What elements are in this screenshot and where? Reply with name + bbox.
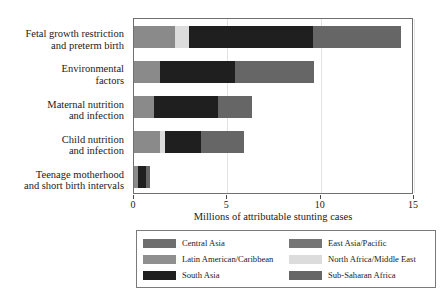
legend-label: North Africa/Middle East [328, 254, 416, 264]
legend-label: Latin American/Caribbean [182, 254, 273, 264]
bar-segment[interactable] [134, 61, 160, 83]
legend-grid: Central AsiaEast Asia/PacificLatin Ameri… [143, 235, 429, 283]
bar-segment[interactable] [201, 131, 244, 153]
stacked-bar-chart-figure: Fetal growth restriction and preterm bir… [0, 0, 442, 292]
bar-segment[interactable] [175, 26, 189, 48]
bar-segment[interactable] [138, 166, 146, 188]
gridline [414, 19, 415, 193]
legend-swatch [289, 255, 322, 264]
category-label: Fetal growth restriction and preterm bir… [25, 28, 124, 51]
bar-segment[interactable] [154, 96, 218, 118]
category-label: Environmental factors [62, 63, 124, 86]
legend-item[interactable]: East Asia/Pacific [289, 238, 429, 248]
x-axis-tick-label: 10 [315, 199, 325, 210]
bar-segment[interactable] [189, 26, 313, 48]
legend-swatch [143, 239, 176, 248]
x-axis-tick-label: 5 [224, 199, 229, 210]
category-label: Maternal nutrition and infection [47, 99, 124, 122]
x-axis-tick-label: 0 [131, 199, 136, 210]
legend-item[interactable]: North Africa/Middle East [289, 254, 429, 264]
legend-item[interactable]: Central Asia [143, 238, 283, 248]
legend-label: South Asia [182, 270, 219, 280]
bar-segment[interactable] [165, 131, 201, 153]
legend-swatch [289, 271, 322, 280]
x-axis-title: Millions of attributable stunting cases [133, 211, 413, 222]
bar-row[interactable] [134, 131, 244, 153]
legend-label: Sub-Saharan Africa [328, 270, 396, 280]
bar-segment[interactable] [134, 131, 160, 153]
bar-segment[interactable] [146, 166, 150, 188]
legend-item[interactable]: South Asia [143, 270, 283, 280]
legend-item[interactable]: Sub-Saharan Africa [289, 270, 429, 280]
legend-swatch [143, 255, 176, 264]
legend-swatch [289, 239, 322, 248]
x-axis-tick-label: 15 [408, 199, 418, 210]
plot-area [133, 18, 413, 194]
bar-segment[interactable] [235, 61, 314, 83]
bar-segment[interactable] [134, 96, 154, 118]
category-axis-labels: Fetal growth restriction and preterm bir… [0, 22, 128, 194]
bar-segment[interactable] [160, 61, 235, 83]
legend-item[interactable]: Latin American/Caribbean [143, 254, 283, 264]
bar-segment[interactable] [218, 96, 252, 118]
bar-row[interactable] [134, 61, 314, 83]
category-label: Child nutrition and infection [62, 134, 124, 157]
bar-row[interactable] [134, 26, 401, 48]
bar-segment[interactable] [313, 26, 401, 48]
legend-swatch [143, 271, 176, 280]
legend-label: East Asia/Pacific [328, 238, 386, 248]
bar-segment[interactable] [134, 26, 175, 48]
bar-row[interactable] [134, 166, 150, 188]
chart-legend: Central AsiaEast Asia/PacificLatin Ameri… [136, 230, 436, 288]
legend-label: Central Asia [182, 238, 225, 248]
category-label: Teenage motherhood and short birth inter… [24, 169, 124, 192]
bar-row[interactable] [134, 96, 252, 118]
